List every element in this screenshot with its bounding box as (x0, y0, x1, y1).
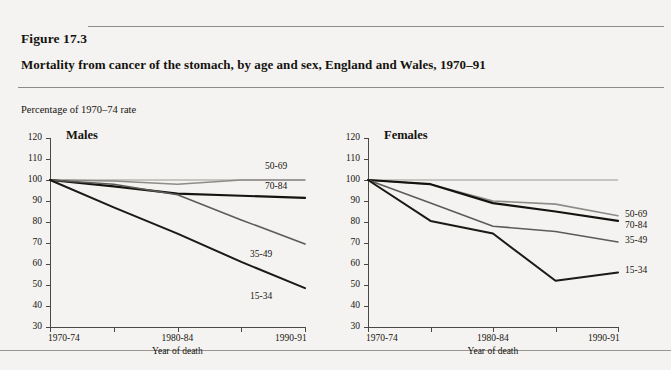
series-label-50-69: 50-69 (625, 209, 647, 219)
series-label-35-49: 35-49 (625, 235, 647, 245)
series-label-15-34: 15-34 (625, 265, 647, 275)
series-label-70-84: 70-84 (625, 220, 647, 230)
figure-page: Figure 17.3 Mortality from cancer of the… (0, 0, 671, 370)
series-line-15-34 (368, 180, 618, 281)
plot-area-females (0, 0, 671, 370)
series-line-50-69 (368, 180, 618, 216)
